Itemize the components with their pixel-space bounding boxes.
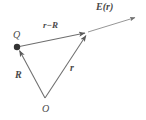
label-charge-Q: Q	[13, 30, 20, 40]
vector-diagram-figure: E(r) r−R Q R r O	[0, 0, 146, 120]
vector-R-line	[20, 51, 46, 99]
label-vector-R: R	[15, 70, 22, 80]
label-origin-O: O	[42, 104, 49, 114]
label-field-E: E(r)	[96, 2, 113, 12]
vector-E-line	[88, 18, 135, 32]
diagram-canvas	[0, 0, 146, 120]
point-charge-dot	[14, 44, 20, 50]
vector-r-line	[45, 36, 86, 99]
vector-r-minus-R-line	[17, 33, 85, 47]
label-separation-r-minus-R: r−R	[43, 21, 58, 30]
label-vector-r: r	[70, 63, 74, 73]
